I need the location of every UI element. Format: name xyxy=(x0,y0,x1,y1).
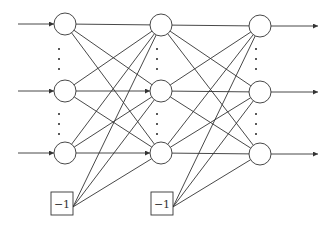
ellipsis-dot xyxy=(156,48,158,50)
bias-label: −1 xyxy=(154,198,170,211)
neuron-node xyxy=(150,80,172,102)
weight-edge xyxy=(170,32,251,85)
ellipsis-dot xyxy=(58,113,60,115)
ellipsis-dot xyxy=(58,48,60,50)
ellipsis-dot xyxy=(156,123,158,125)
neuron-node xyxy=(150,142,172,164)
bias-units: −1−1 xyxy=(51,192,173,215)
ellipsis-dot xyxy=(156,68,158,70)
ellipsis-dot xyxy=(156,58,158,60)
weight-edge xyxy=(170,98,250,147)
neuron-node xyxy=(249,143,271,165)
ellipsis-dot xyxy=(58,68,60,70)
ellipsis-dot xyxy=(255,48,257,50)
ellipsis-dot xyxy=(58,123,60,125)
ellipsis-dot xyxy=(156,133,158,135)
neuron-node xyxy=(54,13,76,35)
ellipsis-dot xyxy=(255,68,257,70)
connections xyxy=(18,24,318,207)
ellipsis-dot xyxy=(255,133,257,135)
ellipsis-dot xyxy=(255,113,257,115)
weight-edge xyxy=(172,153,249,154)
neural-network-diagram: −1−1 xyxy=(0,0,334,231)
neuron-node xyxy=(249,81,271,103)
neuron-node xyxy=(54,80,76,102)
neuron-node xyxy=(249,15,271,37)
neuron-node xyxy=(150,14,172,36)
neuron-node xyxy=(54,142,76,164)
weight-edge xyxy=(172,25,249,26)
weight-edge xyxy=(172,91,249,92)
ellipsis-dot xyxy=(156,113,158,115)
ellipsis-dot xyxy=(255,58,257,60)
weight-edge xyxy=(76,24,150,25)
ellipsis-dot xyxy=(58,58,60,60)
ellipsis-dot xyxy=(255,123,257,125)
ellipsis-dot xyxy=(58,133,60,135)
bias-label: −1 xyxy=(54,198,70,211)
neurons xyxy=(54,13,271,165)
